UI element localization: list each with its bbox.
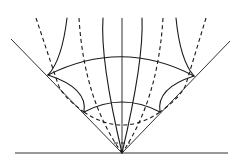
inner-solid-curve (48, 75, 84, 112)
solid-curve (103, 18, 122, 153)
solid-arc (48, 57, 194, 76)
light-cone-diagram (0, 0, 244, 168)
solid-curve (122, 18, 142, 153)
solid-curve (48, 18, 67, 75)
diagram-canvas (0, 0, 244, 168)
dashed-curve (160, 18, 206, 112)
left-cone-line (11, 39, 122, 153)
dashed-curve (36, 18, 84, 112)
inner-solid-curve (160, 76, 194, 112)
dashed-curve (79, 18, 122, 153)
inner-solid-curves (48, 75, 194, 112)
dashed-curve (122, 18, 163, 153)
dashed-curves (36, 18, 206, 153)
